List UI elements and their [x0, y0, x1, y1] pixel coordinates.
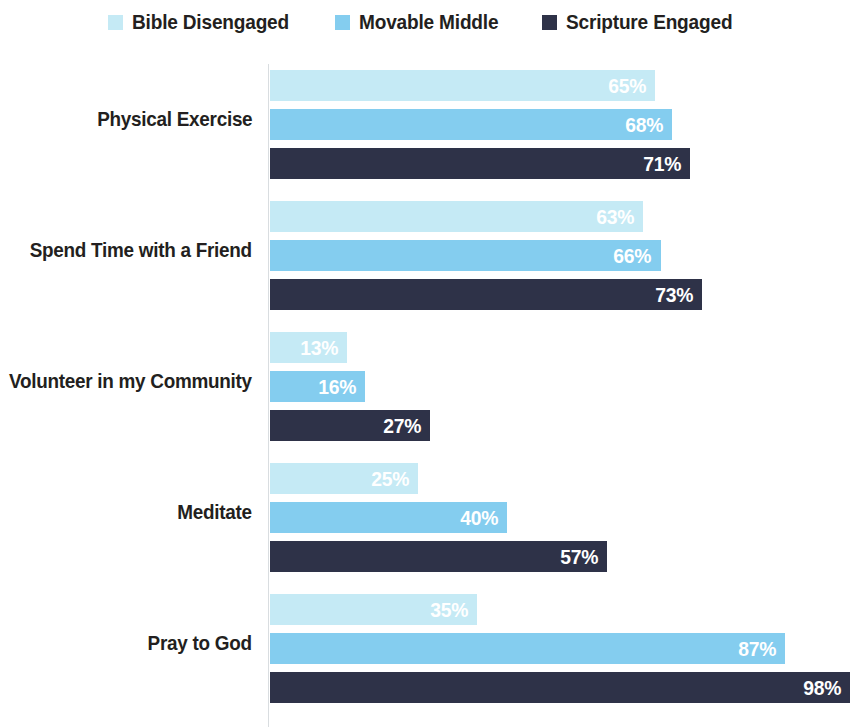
legend-label: Scripture Engaged [566, 10, 732, 34]
bar-bible-disengaged: 65% [270, 70, 655, 101]
table-row: 27% [270, 410, 430, 441]
square-swatch-icon [335, 15, 350, 30]
plot-area: Physical Exercise 65% 68% 71% [0, 44, 853, 727]
bar-scripture-engaged: 73% [270, 279, 702, 310]
table-row: 98% [270, 672, 850, 703]
bar-value-label: 16% [318, 376, 356, 397]
bar-movable-middle: 87% [270, 633, 785, 664]
bar-group: Physical Exercise 65% 68% 71% [0, 64, 853, 174]
table-row: 25% [270, 463, 418, 494]
table-row: 63% [270, 201, 643, 232]
bar-bible-disengaged: 63% [270, 201, 643, 232]
bar-value-label: 13% [300, 337, 338, 358]
bar-group-bars: 25% 40% 57% [270, 457, 853, 567]
table-row: 87% [270, 633, 785, 664]
category-label: Volunteer in my Community [0, 326, 252, 436]
bar-movable-middle: 68% [270, 109, 672, 140]
category-label: Spend Time with a Friend [0, 195, 252, 305]
category-label: Pray to God [0, 588, 252, 698]
table-row: 35% [270, 594, 477, 625]
bar-scripture-engaged: 71% [270, 148, 690, 179]
table-row: 73% [270, 279, 702, 310]
chart-legend: Bible Disengaged Movable Middle Scriptur… [0, 0, 853, 44]
legend-label: Bible Disengaged [132, 10, 289, 34]
bar-value-label: 66% [614, 245, 652, 266]
bar-movable-middle: 16% [270, 371, 365, 402]
bar-group: Spend Time with a Friend 63% 66% 73% [0, 195, 853, 305]
bar-group-bars: 65% 68% 71% [270, 64, 853, 174]
bar-value-label: 27% [383, 415, 421, 436]
bar-scripture-engaged: 98% [270, 672, 850, 703]
bar-value-label: 71% [643, 153, 681, 174]
bar-value-label: 87% [738, 638, 776, 659]
bar-group-bars: 13% 16% 27% [270, 326, 853, 436]
bar-group-bars: 35% 87% 98% [270, 588, 853, 698]
bar-movable-middle: 40% [270, 502, 507, 533]
square-swatch-icon [542, 15, 557, 30]
table-row: 71% [270, 148, 690, 179]
square-swatch-icon [108, 15, 123, 30]
table-row: 68% [270, 109, 672, 140]
table-row: 66% [270, 240, 661, 271]
bar-value-label: 25% [371, 468, 409, 489]
bar-movable-middle: 66% [270, 240, 661, 271]
bar-chart: Bible Disengaged Movable Middle Scriptur… [0, 0, 853, 727]
legend-item-scripture-engaged: Scripture Engaged [542, 10, 745, 34]
table-row: 57% [270, 541, 607, 572]
bar-scripture-engaged: 57% [270, 541, 607, 572]
legend-item-movable-middle: Movable Middle [335, 10, 509, 34]
bar-bible-disengaged: 13% [270, 332, 347, 363]
bar-group: Volunteer in my Community 13% 16% 27% [0, 326, 853, 436]
bar-bible-disengaged: 25% [270, 463, 418, 494]
bar-bible-disengaged: 35% [270, 594, 477, 625]
bar-value-label: 35% [430, 599, 468, 620]
bar-value-label: 68% [626, 114, 664, 135]
table-row: 40% [270, 502, 507, 533]
table-row: 16% [270, 371, 365, 402]
bar-group: Meditate 25% 40% 57% [0, 457, 853, 567]
table-row: 13% [270, 332, 347, 363]
legend-label: Movable Middle [359, 10, 498, 34]
bar-value-label: 40% [460, 507, 498, 528]
table-row: 65% [270, 70, 655, 101]
category-label: Physical Exercise [0, 64, 252, 174]
bar-value-label: 65% [608, 75, 646, 96]
bar-value-label: 63% [596, 206, 634, 227]
category-label: Meditate [0, 457, 252, 567]
bar-value-label: 98% [803, 677, 841, 698]
bar-group-bars: 63% 66% 73% [270, 195, 853, 305]
bar-scripture-engaged: 27% [270, 410, 430, 441]
bar-value-label: 57% [560, 546, 598, 567]
bar-value-label: 73% [655, 284, 693, 305]
bar-group: Pray to God 35% 87% 98% [0, 588, 853, 698]
legend-item-bible-disengaged: Bible Disengaged [108, 10, 301, 34]
